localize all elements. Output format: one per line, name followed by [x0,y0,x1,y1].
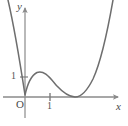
origin-label: O [16,99,24,110]
x-axis-label: x [116,101,121,112]
function-graph-figure: y x 1 1 O [0,0,128,126]
y-axis-label: y [17,1,22,12]
x-tick-label-one: 1 [47,101,52,111]
function-curve [8,0,113,97]
y-tick-label-one: 1 [11,71,16,81]
